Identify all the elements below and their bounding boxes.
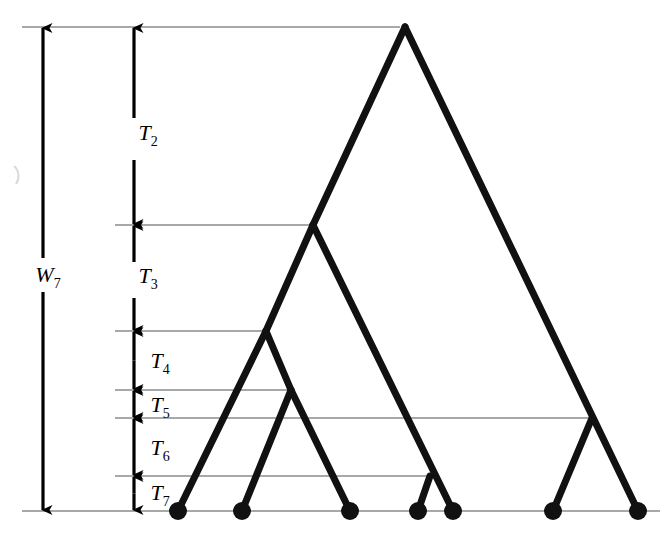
label-interval-T3-subscript: 3 bbox=[151, 277, 158, 292]
label-interval-T7: T7 bbox=[150, 480, 169, 509]
label-interval-T7-subscript: 7 bbox=[163, 494, 170, 509]
label-interval-T5-subscript: 5 bbox=[163, 406, 170, 421]
label-interval-T6-subscript: 6 bbox=[163, 449, 170, 464]
label-interval-T3: T3 bbox=[138, 263, 157, 292]
label-interval-T2-subscript: 2 bbox=[151, 134, 158, 149]
tip-7 bbox=[629, 502, 647, 520]
interval-labels: W7T2T3T4T5T6T7 bbox=[35, 120, 169, 509]
label-total-height: W7 bbox=[35, 262, 60, 291]
tip-2 bbox=[233, 502, 251, 520]
tip-6 bbox=[544, 502, 562, 520]
coalescent-tree-figure: W7T2T3T4T5T6T7 bbox=[0, 0, 670, 539]
label-total-height-subscript: 7 bbox=[54, 276, 61, 291]
scan-artifact-mark bbox=[14, 166, 18, 184]
label-interval-T4-subscript: 4 bbox=[163, 362, 170, 377]
label-total-height-base: W bbox=[35, 262, 55, 287]
tip-4 bbox=[409, 502, 427, 520]
branch-n2-left bbox=[266, 225, 313, 331]
branch-n2-right bbox=[313, 225, 453, 511]
branch-root-right bbox=[405, 27, 638, 511]
label-interval-T5: T5 bbox=[150, 392, 169, 421]
figure-canvas: W7T2T3T4T5T6T7 bbox=[0, 0, 670, 539]
branch-n4-right bbox=[291, 390, 350, 511]
interval-axes bbox=[43, 28, 134, 510]
branch-n4-left bbox=[242, 390, 291, 511]
gridlines bbox=[22, 27, 660, 511]
tip-5 bbox=[444, 502, 462, 520]
branch-root-left bbox=[313, 27, 405, 225]
branch-n3-right bbox=[266, 331, 291, 390]
label-interval-T4: T4 bbox=[150, 348, 169, 377]
tip-1 bbox=[169, 502, 187, 520]
tree-branches bbox=[178, 27, 638, 511]
label-interval-T2: T2 bbox=[138, 120, 157, 149]
label-interval-T6: T6 bbox=[150, 435, 169, 464]
tip-3 bbox=[341, 502, 359, 520]
branch-n5-left bbox=[553, 418, 592, 511]
